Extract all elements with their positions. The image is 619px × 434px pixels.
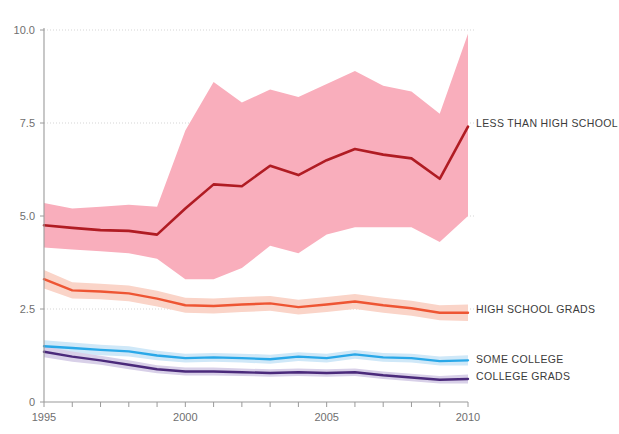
- y-axis-tick-labels: 02.55.07.510.0: [14, 24, 35, 408]
- confidence-band-1: [44, 270, 468, 321]
- x-tick-label-2005: 2005: [314, 411, 338, 423]
- y-tick-label-5: 5.0: [20, 210, 35, 222]
- y-tick-label-10: 10.0: [14, 24, 35, 36]
- series-label-3: COLLEGE GRADS: [476, 370, 570, 382]
- y-tick-label-0: 0: [29, 396, 35, 408]
- series-label-1: HIGH SCHOOL GRADS: [476, 303, 595, 315]
- x-tick-label-2010: 2010: [456, 411, 480, 423]
- confidence-bands: [44, 34, 468, 384]
- x-tick-label-2000: 2000: [173, 411, 197, 423]
- line-chart: 02.55.07.510.0 1995200020052010 LESS THA…: [0, 0, 619, 434]
- y-tick-label-7.5: 7.5: [20, 117, 35, 129]
- series-label-2: SOME COLLEGE: [476, 353, 564, 365]
- x-axis-tick-labels: 1995200020052010: [32, 411, 480, 423]
- series-labels: LESS THAN HIGH SCHOOLHIGH SCHOOL GRADSSO…: [476, 117, 618, 383]
- x-tick-label-1995: 1995: [32, 411, 56, 423]
- chart-container: 02.55.07.510.0 1995200020052010 LESS THA…: [0, 0, 619, 434]
- y-tick-label-2.5: 2.5: [20, 303, 35, 315]
- series-label-0: LESS THAN HIGH SCHOOL: [476, 117, 618, 129]
